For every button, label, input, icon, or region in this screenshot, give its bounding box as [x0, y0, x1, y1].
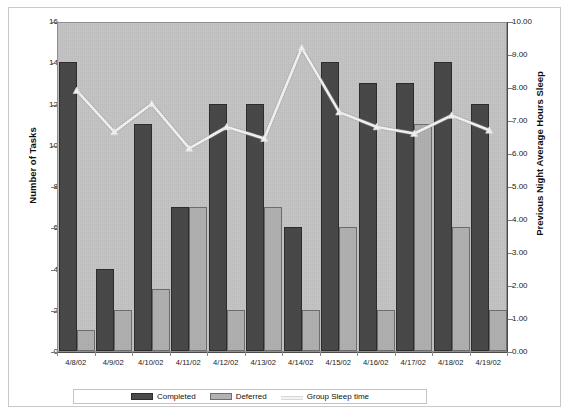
bar-deferred [77, 330, 95, 351]
x-axis-tick-mark [470, 352, 471, 356]
bar-completed [209, 104, 227, 352]
y-axis-right-tick: 0.00 [512, 347, 556, 356]
bar-completed [59, 62, 77, 351]
bar-deferred [452, 227, 470, 351]
legend-item-sleep: Group Sleep time [281, 392, 369, 401]
bar-completed [246, 104, 264, 352]
bar-completed [284, 227, 302, 351]
legend-label-deferred: Deferred [236, 392, 267, 401]
y-axis-right-tick: 5.00 [512, 182, 556, 191]
legend-swatch-sleep-line [281, 393, 303, 401]
x-axis-tick-mark [95, 352, 96, 356]
y-axis-right-tick: 4.00 [512, 215, 556, 224]
bar-completed [471, 104, 489, 352]
y-axis-left-title: Number of Tasks [27, 96, 38, 236]
bar-deferred [152, 289, 170, 351]
y-axis-right-tick: 7.00 [512, 116, 556, 125]
x-axis-tick-mark [320, 352, 321, 356]
bar-deferred [227, 310, 245, 351]
bar-deferred [114, 310, 132, 351]
bar-completed [171, 207, 189, 351]
bar-deferred [189, 207, 207, 351]
bar-deferred [414, 124, 432, 351]
x-axis-tick-mark [245, 352, 246, 356]
y-axis-right-tick: 3.00 [512, 248, 556, 257]
sleep-line-marker [148, 100, 155, 106]
legend-swatch-completed [131, 393, 153, 400]
sleep-line-marker [186, 145, 193, 151]
bar-deferred [377, 310, 395, 351]
x-axis-tick-mark [57, 352, 58, 356]
x-axis-tick-mark [357, 352, 358, 356]
bar-completed [134, 124, 152, 351]
legend-label-completed: Completed [157, 392, 196, 401]
sleep-line-marker [298, 44, 305, 50]
plot-area [57, 22, 507, 352]
legend-item-deferred: Deferred [210, 392, 267, 401]
x-axis-tick-mark [395, 352, 396, 356]
legend-item-completed: Completed [131, 392, 196, 401]
bar-deferred [302, 310, 320, 351]
y-axis-right-tick: 8.00 [512, 83, 556, 92]
bar-completed [321, 62, 339, 351]
x-axis-tick-mark [282, 352, 283, 356]
bar-completed [396, 83, 414, 351]
x-axis-tick-mark [170, 352, 171, 356]
y-axis-right-tick: 6.00 [512, 149, 556, 158]
bar-deferred [489, 310, 507, 351]
plot-inner [58, 23, 506, 351]
x-axis-tick-mark [432, 352, 433, 356]
legend-swatch-deferred [210, 393, 232, 400]
x-axis-tick-label: 4/19/02 [463, 358, 513, 367]
chart-container: Number of Tasks Previous Night Average H… [8, 7, 561, 407]
chart-legend: Completed Deferred Group Sleep time [73, 389, 427, 404]
y-axis-right-tick: 10.00 [512, 17, 556, 26]
x-axis-tick-mark [132, 352, 133, 356]
sleep-line-marker [111, 128, 118, 134]
bar-completed [96, 269, 114, 352]
x-axis-tick-mark [207, 352, 208, 356]
bar-deferred [264, 207, 282, 351]
bar-completed [359, 83, 377, 351]
y-axis-right-tick: 2.00 [512, 281, 556, 290]
bar-deferred [339, 227, 357, 351]
bar-completed [434, 62, 452, 351]
y-axis-right-line [507, 22, 508, 353]
y-axis-right-tick: 9.00 [512, 50, 556, 59]
y-axis-right-tick: 1.00 [512, 314, 556, 323]
x-axis-tick-mark [507, 352, 508, 356]
legend-label-sleep: Group Sleep time [307, 392, 369, 401]
